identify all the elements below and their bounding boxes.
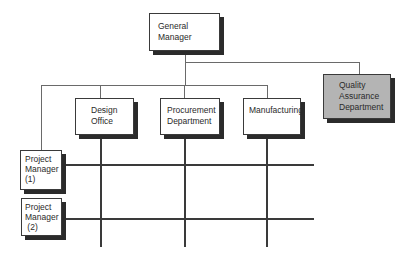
manufacturing-matrix-column <box>266 135 268 247</box>
pm1-label-1: Project <box>25 154 61 164</box>
qa-branch-line <box>185 62 359 63</box>
qa-label-2: Assurance <box>339 91 390 102</box>
manufacturing-box: Manufacturing <box>243 98 301 135</box>
pm1-label-3: (1) <box>25 174 61 184</box>
qa-label-1: Quality <box>339 80 390 91</box>
general-manager-label-1: General <box>158 21 211 32</box>
pm2-label-1: Project <box>25 202 61 212</box>
procurement-department-box: Procurement Department <box>160 98 220 135</box>
design-office-label-2: Office <box>91 116 133 127</box>
procurement-label-1: Procurement <box>167 105 219 116</box>
pm1-label-2: Manager <box>25 164 61 174</box>
quality-assurance-box: Quality Assurance Department <box>323 74 391 119</box>
qa-label-3: Department <box>339 102 390 113</box>
gm-trunk-line <box>185 51 186 86</box>
general-manager-label-2: Manager <box>158 32 211 43</box>
design-office-label-1: Design <box>91 105 133 116</box>
pm2-matrix-row <box>62 218 314 220</box>
project-manager-1-box: Project Manager (1) <box>20 150 62 190</box>
procurement-drop-line <box>184 85 185 98</box>
manufacturing-drop-line <box>267 85 268 98</box>
procurement-matrix-column <box>184 135 186 247</box>
design-matrix-column <box>100 135 102 247</box>
pm1-matrix-row <box>62 164 314 166</box>
project-manager-2-box: Project Manager (2) <box>21 198 62 236</box>
design-drop-line <box>100 85 101 98</box>
general-manager-box: General Manager <box>149 13 220 51</box>
pm2-label-3: (2) <box>25 222 61 232</box>
manufacturing-label: Manufacturing <box>249 105 300 116</box>
procurement-label-2: Department <box>167 116 219 127</box>
design-office-box: Design Office <box>75 98 134 135</box>
pm-drop-line <box>41 85 42 150</box>
pm2-label-2: Manager <box>25 212 61 222</box>
department-bus-line <box>41 85 267 86</box>
